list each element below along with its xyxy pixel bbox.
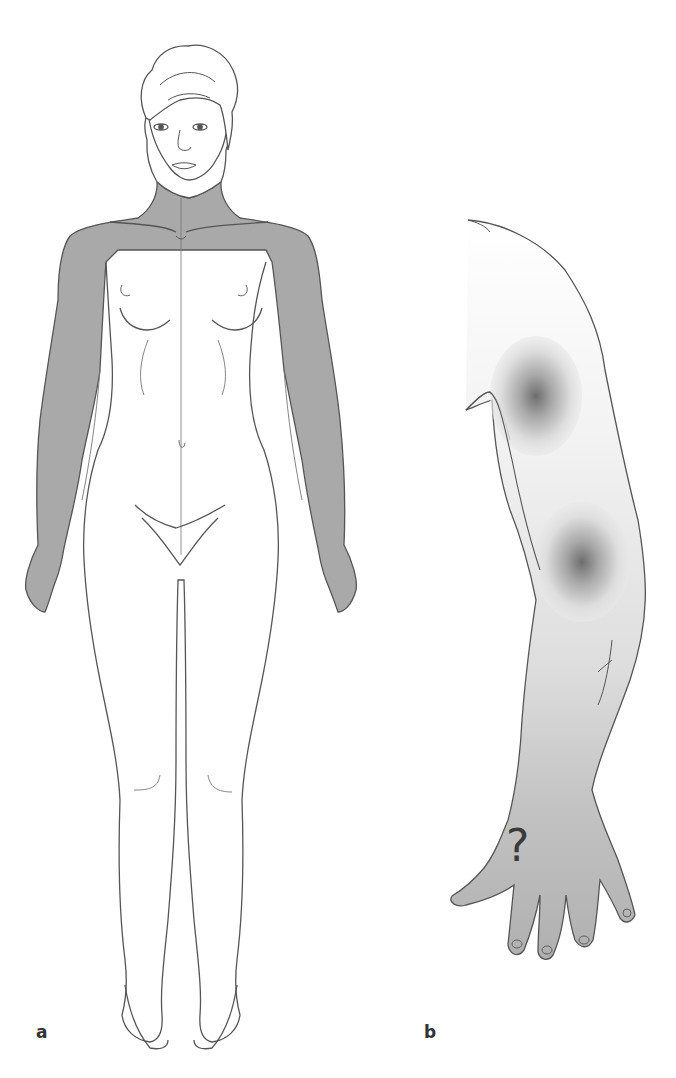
panel-a-figure <box>26 182 357 1049</box>
pain-focus-elbow <box>534 502 630 622</box>
panel-label-b: b <box>424 1022 436 1042</box>
body-diagram <box>0 0 676 1078</box>
panel-b-arm <box>451 220 645 959</box>
head <box>141 45 237 198</box>
shaded-region-upper <box>26 182 357 612</box>
panel-label-a: a <box>36 1022 47 1042</box>
unknown-symptom-question-mark: ? <box>506 820 529 871</box>
pain-focus-shoulder <box>490 336 582 456</box>
